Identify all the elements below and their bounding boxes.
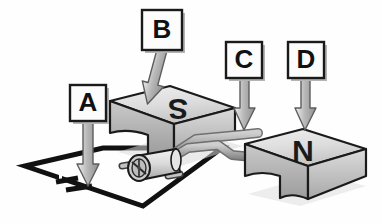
callout-label-b-text: B [153,14,172,44]
physics-diagram: S [0,0,382,224]
callout-label-a-text: A [79,87,98,117]
magnet-south-pole-letter: S [168,93,188,126]
callout-label-c-text: C [235,44,254,74]
callout-label-d-text: D [297,44,316,74]
diagram-canvas: S [0,0,382,224]
callout-label-a[interactable]: A [70,85,109,124]
magnet-north-pole-letter: N [292,135,314,168]
callout-label-c[interactable]: C [226,42,265,81]
callout-label-d[interactable]: D [288,42,327,81]
callout-label-b[interactable]: B [142,10,185,53]
